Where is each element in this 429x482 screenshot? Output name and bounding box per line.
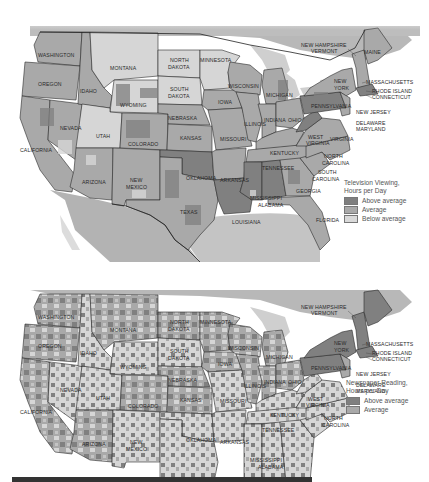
label-minnesota: MINNESOTA — [200, 57, 232, 63]
swatch-average — [344, 206, 358, 214]
swatch-above-average — [344, 197, 358, 205]
label-iowa: IOWA — [218, 99, 232, 105]
label-new-mexico-2: MEXICO — [126, 184, 147, 190]
label-kentucky: KENTUCKY — [270, 412, 299, 418]
label-indiana: INDIANA — [264, 379, 286, 385]
label-new-york-1: NEW — [334, 78, 346, 84]
legend-label: Above average — [362, 197, 406, 205]
label-oregon: OREGON — [38, 81, 62, 87]
label-virginia: VIRGINIA — [330, 136, 354, 142]
legend-item-average: Average — [346, 406, 408, 414]
label-pennsylvania: PENNSYLVANIA — [311, 103, 352, 109]
label-nebraska: NEBRASKA — [168, 377, 197, 383]
label-north-carolina-1: NORTH — [324, 415, 343, 421]
label-california: CALIFORNIA — [20, 409, 53, 415]
label-new-mexico-1: NEW — [130, 439, 142, 445]
label-new-york-1: NEW — [334, 340, 346, 346]
label-nevada: NEVADA — [60, 387, 82, 393]
label-new-jersey: NEW JERSEY — [356, 109, 391, 115]
label-kansas: KANSAS — [180, 397, 202, 403]
label-arizona: ARIZONA — [82, 441, 106, 447]
label-north-dakota-2: DAKOTA — [168, 64, 190, 70]
swatch-average — [346, 406, 360, 414]
label-maryland: MARYLAND — [356, 126, 386, 132]
label-iowa: IOWA — [218, 361, 232, 367]
tv-legend: Television Viewing, Hours per Day Above … — [344, 179, 406, 224]
label-montana: MONTANA — [110, 327, 137, 333]
label-tennessee: TENNESSEE — [262, 427, 295, 433]
label-oklahoma: OKLAHOMA — [186, 437, 217, 443]
tv-legend-title-line1: Television Viewing, — [344, 179, 406, 187]
label-pennsylvania: PENNSYLVANIA — [311, 365, 352, 371]
label-wisconsin: WISCONSIN — [228, 83, 259, 89]
label-oregon: OREGON — [38, 343, 62, 349]
label-nebraska: NEBRASKA — [168, 115, 197, 121]
legend-label: Above average — [364, 397, 408, 405]
label-montana: MONTANA — [110, 65, 137, 71]
legend-item-above-average: Above average — [346, 397, 408, 405]
label-michigan: MICHIGAN — [266, 92, 293, 98]
label-north-dakota-1: NORTH — [170, 57, 189, 63]
label-utah: UTAH — [96, 133, 110, 139]
label-rhode-island: RHODE ISLAND — [372, 350, 412, 356]
television-viewing-map: WASHINGTON OREGON CALIFORNIA NEVADA IDAH… — [0, 0, 429, 262]
label-new-jersey: NEW JERSEY — [356, 371, 391, 377]
label-colorado: COLORADO — [128, 141, 159, 147]
news-legend-title: Newspaper Reading, Hours per Day — [346, 379, 408, 395]
label-washington: WASHINGTON — [38, 52, 75, 58]
label-west-virginia-2: VIRGINIA — [306, 402, 330, 408]
label-missouri: MISSOURI — [220, 136, 246, 142]
label-south-dakota-2: DAKOTA — [168, 93, 190, 99]
label-massachusetts: MASSACHUSETTS — [366, 341, 414, 347]
label-minnesota: MINNESOTA — [200, 319, 232, 325]
top-fade — [0, 0, 429, 30]
label-utah: UTAH — [96, 395, 110, 401]
label-tennessee: TENNESSEE — [262, 165, 295, 171]
label-ohio: OHIO — [288, 379, 302, 385]
label-south-dakota-1: SOUTH — [170, 86, 189, 92]
label-north-dakota-1: NORTH — [170, 319, 189, 325]
label-colorado: COLORADO — [128, 403, 159, 409]
label-wyoming: WYOMING — [120, 364, 147, 370]
label-oklahoma: OKLAHOMA — [186, 175, 217, 181]
swatch-below-average — [344, 215, 358, 223]
label-louisiana: LOUISIANA — [232, 219, 261, 225]
label-texas: TEXAS — [180, 209, 198, 215]
label-north-carolina-2: CAROLINA — [322, 422, 350, 428]
label-arizona: ARIZONA — [82, 179, 106, 185]
label-maine: MAINE — [364, 49, 381, 55]
legend-item-below-average: Below average — [344, 215, 406, 223]
swatch-above-average — [346, 397, 360, 405]
label-south-carolina-2: CAROLINA — [312, 176, 340, 182]
label-kentucky: KENTUCKY — [270, 150, 299, 156]
label-michigan: MICHIGAN — [266, 354, 293, 360]
label-massachusetts: MASSACHUSETTS — [366, 79, 414, 85]
news-legend-title-line2: Hours per Day — [346, 387, 408, 395]
legend-item-average: Average — [344, 206, 406, 214]
label-ohio: OHIO — [288, 117, 302, 123]
news-legend-title-line1: Newspaper Reading, — [346, 379, 408, 387]
legend-item-above-average: Above average — [344, 197, 406, 205]
label-nevada: NEVADA — [60, 125, 82, 131]
label-vermont: VERMONT — [311, 310, 338, 316]
label-wisconsin: WISCONSIN — [228, 345, 259, 351]
news-map-graphic: WASHINGTON OREGON CALIFORNIA NEVADA IDAH… — [0, 268, 429, 482]
label-mississippi: MISSISSIPPI — [250, 195, 282, 201]
tv-legend-title: Television Viewing, Hours per Day — [344, 179, 406, 195]
label-new-mexico-2: MEXICO — [126, 446, 147, 452]
label-florida: FLORIDA — [316, 217, 340, 223]
newspaper-reading-map: WASHINGTON OREGON CALIFORNIA NEVADA IDAH… — [0, 268, 429, 482]
bottom-edge-bar — [12, 477, 312, 482]
label-missouri: MISSOURI — [220, 398, 246, 404]
label-washington: WASHINGTON — [38, 314, 75, 320]
label-north-carolina-1: NORTH — [324, 153, 343, 159]
legend-label: Average — [364, 406, 388, 414]
label-connecticut: CONNECTICUT — [372, 94, 412, 100]
label-alabama: ALABAMA — [258, 464, 284, 470]
news-legend: Newspaper Reading, Hours per Day Above a… — [346, 379, 408, 415]
label-new-mexico-1: NEW — [130, 177, 142, 183]
label-mississippi: MISSISSIPPI — [250, 457, 282, 463]
label-wyoming: WYOMING — [120, 102, 147, 108]
label-kansas: KANSAS — [180, 135, 202, 141]
label-south-carolina-1: SOUTH — [318, 169, 337, 175]
